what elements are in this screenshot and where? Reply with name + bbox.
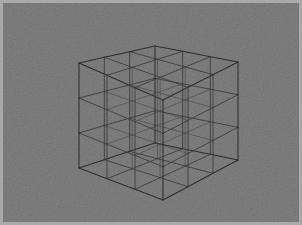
lattice-edge — [155, 46, 183, 51]
lattice-edge — [79, 133, 107, 144]
lattice-edge — [185, 100, 213, 108]
wireframe-cube — [0, 0, 302, 225]
lattice-edge — [160, 166, 185, 178]
lattice-edge — [160, 178, 188, 187]
lattice-edge — [132, 101, 160, 111]
lattice-edge — [104, 126, 132, 135]
lattice-edge — [132, 67, 160, 77]
lattice-edge — [132, 59, 157, 67]
lattice-edge — [213, 127, 238, 140]
lattice-edge — [185, 89, 210, 100]
lattice-edge — [188, 173, 213, 186]
lattice-edge — [130, 52, 158, 60]
lattice-edge — [107, 179, 135, 190]
lattice-edge — [135, 178, 160, 190]
lattice-edge — [107, 67, 132, 75]
lattice-edge — [132, 169, 160, 178]
lattice-edge — [155, 143, 183, 149]
lattice-edge — [163, 187, 188, 200]
lattice-edge — [188, 108, 213, 121]
lattice-edge — [135, 189, 163, 200]
lattice-edge — [135, 88, 163, 100]
lattice-edge — [79, 168, 107, 179]
lattice-edge — [130, 143, 155, 151]
lattice-edge — [185, 122, 210, 133]
lattice-edge — [188, 75, 213, 88]
lattice-edge — [157, 84, 182, 93]
lattice-edge — [185, 154, 210, 166]
lattice-edge — [157, 116, 182, 125]
lattice-edge — [157, 51, 182, 59]
lattice-edge — [130, 118, 158, 125]
lattice-edge — [185, 67, 213, 75]
lattice-edge — [185, 57, 210, 67]
lattice-edge — [132, 159, 157, 169]
lattice-edge — [107, 169, 132, 179]
lattice-edge — [210, 57, 238, 62]
lattice-edge — [107, 75, 135, 87]
lattice-edge — [79, 160, 104, 168]
lattice-edge — [185, 166, 213, 173]
lattice-edge — [160, 67, 185, 77]
lattice-edge — [213, 95, 238, 108]
lattice-edge — [107, 110, 135, 122]
lattice-edge — [104, 52, 129, 58]
lattice-edge — [107, 101, 132, 110]
lattice-edge — [104, 85, 129, 92]
lattice-lines — [79, 46, 238, 200]
lattice-edge — [157, 149, 182, 159]
lattice-edge — [79, 57, 104, 63]
lattice-edge — [188, 140, 213, 153]
lattice-edge — [135, 155, 163, 166]
figure-canvas — [0, 0, 302, 225]
lattice-edge — [155, 78, 183, 83]
lattice-edge — [160, 100, 185, 111]
lattice-edge — [104, 91, 132, 101]
lattice-edge — [132, 92, 157, 101]
lattice-edge — [79, 98, 107, 110]
lattice-edge — [135, 111, 160, 122]
lattice-edge — [210, 154, 238, 160]
lattice-edge — [104, 151, 129, 159]
lattice-edge — [130, 78, 155, 85]
lattice-edge — [213, 62, 238, 75]
lattice-edge — [213, 160, 238, 173]
lattice-edge — [104, 160, 132, 169]
lattice-edge — [104, 57, 132, 67]
lattice-edge — [132, 126, 157, 135]
lattice-edge — [157, 59, 185, 67]
lattice-edge — [210, 122, 238, 128]
lattice-edge — [130, 46, 155, 52]
lattice-edge — [107, 135, 132, 144]
lattice-edge — [104, 118, 129, 125]
lattice-edge — [160, 133, 185, 144]
lattice-edge — [79, 63, 107, 75]
lattice-edge — [79, 91, 104, 98]
lattice-edge — [210, 89, 238, 94]
lattice-edge — [79, 126, 104, 133]
lattice-edge — [163, 154, 188, 167]
lattice-edge — [185, 133, 213, 140]
lattice-edge — [183, 51, 211, 56]
